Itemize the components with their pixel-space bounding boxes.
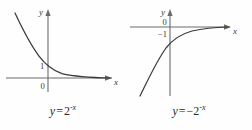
origin-label: 0	[163, 17, 167, 27]
caption-left-exponent: -x	[70, 103, 76, 112]
curve-negative-exponential	[140, 27, 228, 96]
plot-left-svg: x y 1 0	[0, 0, 126, 104]
curve-exponential-decay	[15, 13, 110, 78]
x-axis-label: x	[113, 77, 118, 87]
caption-right: y=−2-x	[126, 104, 252, 119]
caption-left: y=2-x	[0, 104, 126, 119]
caption-right-equals: =	[178, 104, 187, 118]
y-axis-arrowhead-icon	[167, 9, 172, 16]
caption-left-equals: =	[55, 104, 64, 118]
y-axis-left: y	[38, 7, 51, 92]
exponential-functions-figure: x y 1 0 y=2-x x	[0, 0, 252, 130]
y-axis-label: y	[160, 7, 165, 17]
caption-right-lhs: y	[172, 104, 177, 118]
plot-panel-left: x y 1 0 y=2-x	[0, 0, 126, 130]
y-axis-arrowhead-icon	[45, 9, 50, 16]
plot-right-svg: x y 0 −1	[126, 0, 252, 104]
x-axis-label: x	[232, 26, 237, 36]
y-intercept-tick-label: 1	[40, 61, 44, 71]
x-axis-left: x	[6, 75, 118, 87]
y-intercept-tick-label: −1	[158, 29, 167, 39]
plot-panel-right: x y 0 −1 y=−2-x	[126, 0, 252, 130]
origin-label: 0	[41, 81, 45, 91]
caption-right-exponent: -x	[199, 103, 205, 112]
y-axis-label: y	[38, 7, 43, 17]
